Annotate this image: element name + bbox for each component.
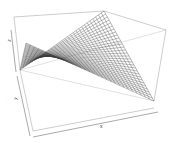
surface-wireframe [0, 0, 174, 143]
x-axis-label: x [100, 124, 103, 129]
